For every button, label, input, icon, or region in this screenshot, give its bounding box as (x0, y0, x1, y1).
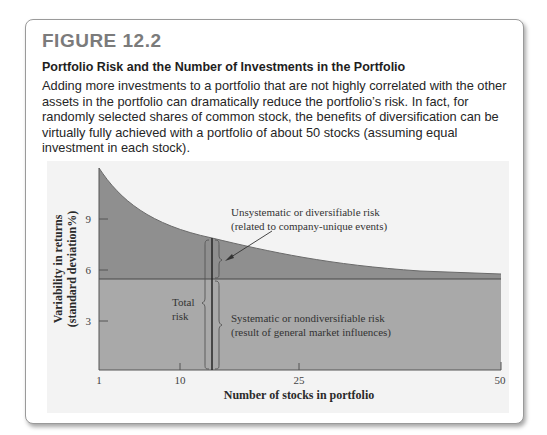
x-tick-25: 25 (294, 374, 306, 386)
y-axis-label-line2: (standard deviation%) (65, 211, 79, 327)
total-risk-label-line2: risk (172, 310, 189, 322)
x-tick-50: 50 (495, 374, 507, 386)
x-tick-10: 10 (175, 374, 187, 386)
y-tick-9: 9 (86, 213, 92, 225)
risk-chart: 9 6 3 1 10 25 50 Number of stocks in por… (0, 0, 547, 435)
unsystematic-label-line1: Unsystematic or diversifiable risk (231, 206, 380, 218)
systematic-risk-area (99, 279, 501, 370)
systematic-label-line1: Systematic or nondiversifiable risk (231, 312, 385, 324)
y-axis-label-line1: Variability in returns (51, 214, 65, 323)
y-tick-6: 6 (86, 264, 92, 276)
y-tick-3: 3 (86, 315, 92, 327)
x-tick-1: 1 (96, 374, 102, 386)
x-axis-label: Number of stocks in portfolio (224, 388, 374, 402)
total-risk-label-line1: Total (172, 296, 194, 308)
systematic-label-line2: (result of general market influences) (231, 326, 391, 339)
unsystematic-label-line2: (related to company-unique events) (231, 220, 387, 233)
